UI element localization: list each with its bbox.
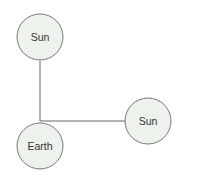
node-label: Sun bbox=[31, 31, 50, 43]
node-label: Sun bbox=[139, 115, 158, 127]
node-sun-top: Sun bbox=[17, 14, 63, 60]
edges bbox=[40, 61, 125, 121]
diagram-canvas: Sun Earth Sun bbox=[0, 0, 197, 179]
node-sun-right: Sun bbox=[125, 98, 171, 144]
node-label: Earth bbox=[27, 140, 52, 152]
node-earth: Earth bbox=[17, 123, 63, 169]
